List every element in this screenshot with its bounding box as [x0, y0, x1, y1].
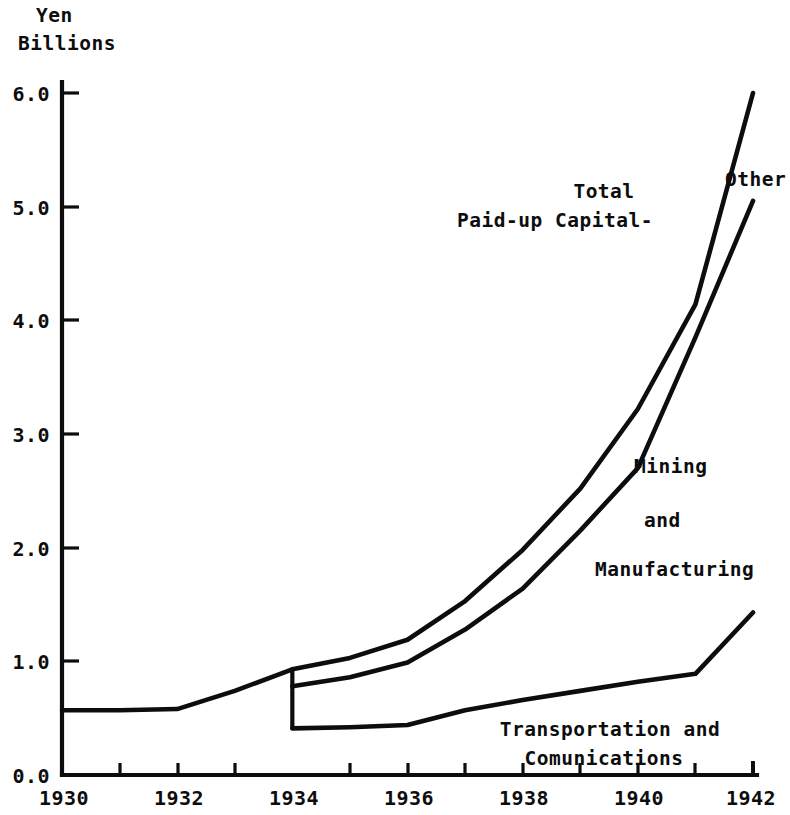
- annotation-other: Other: [725, 168, 786, 191]
- x-tick-label-1942: 1942: [726, 786, 776, 810]
- data-series-group: [62, 93, 753, 728]
- chart-figure: Yen Billions 6.0 5.0 4.0 3.0 2.0 1.0 0.0: [0, 0, 790, 815]
- y-tick-label-1: 1.0: [12, 650, 50, 674]
- x-tick-label-1940: 1940: [614, 786, 664, 810]
- annotation-transportation-and-communications: Transportation and Comunications: [500, 718, 720, 770]
- x-tick-label-1930: 1930: [39, 786, 89, 810]
- annotation-mining-line3: Manufacturing: [595, 558, 754, 581]
- y-tick-label-4: 4.0: [12, 309, 50, 333]
- annotation-total-paid-up-capital: Total Paid-up Capital-: [457, 180, 653, 232]
- annotation-total-line2: Paid-up Capital-: [457, 209, 653, 232]
- y-axis-title-line2: Billions: [18, 32, 116, 55]
- y-axis-ticks: [62, 93, 79, 661]
- x-tick-label-1932: 1932: [154, 786, 204, 810]
- x-tick-label-1938: 1938: [499, 786, 549, 810]
- series-line-combined-pre1934: [62, 669, 292, 710]
- x-tick-label-1934: 1934: [269, 786, 319, 810]
- annotation-transport-line1: Transportation and: [500, 718, 720, 741]
- y-tick-label-0: 0.0: [12, 764, 50, 788]
- series-line-total-paid-up-capital: [292, 93, 753, 669]
- series-line-mining-and-manufacturing: [292, 201, 753, 686]
- y-axis-tick-labels: 6.0 5.0 4.0 3.0 2.0 1.0 0.0: [12, 82, 50, 788]
- y-tick-label-6: 6.0: [12, 82, 50, 106]
- annotation-total-line1: Total: [573, 180, 634, 203]
- annotation-transport-line2: Comunications: [524, 747, 683, 770]
- y-tick-label-5: 5.0: [12, 196, 50, 220]
- chart-svg: Yen Billions 6.0 5.0 4.0 3.0 2.0 1.0 0.0: [0, 0, 790, 815]
- annotation-mining-line2: and: [644, 509, 681, 532]
- annotation-mining-and-manufacturing: Mining and Manufacturing: [595, 455, 754, 581]
- x-tick-label-1936: 1936: [384, 786, 434, 810]
- y-tick-label-3: 3.0: [12, 423, 50, 447]
- annotation-mining-line1: Mining: [634, 455, 707, 478]
- y-tick-label-2: 2.0: [12, 537, 50, 561]
- series-line-transportation-and-communications: [292, 612, 753, 728]
- x-axis-tick-labels: 1930 1932 1934 1936 1938 1940 1942: [39, 786, 776, 810]
- y-axis-title-line1: Yen: [36, 4, 73, 27]
